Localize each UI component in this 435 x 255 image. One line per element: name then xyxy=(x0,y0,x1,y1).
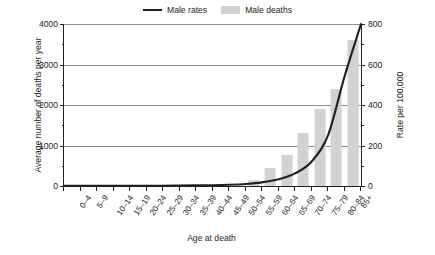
x-axis-labels: 0–45–910–1415–1920–2425–2930–3435–3940–4… xyxy=(63,186,360,234)
x-axis-tick-label: 5–9 xyxy=(96,194,111,210)
bar xyxy=(347,40,358,186)
bar-slot xyxy=(163,24,180,186)
bar xyxy=(298,133,309,186)
y-axis-left-minor-tick xyxy=(62,166,65,167)
y-axis-left-minor-tick xyxy=(62,125,65,126)
legend-item-male-rates: Male rates xyxy=(143,6,207,15)
legend-label-male-deaths: Male deaths xyxy=(245,6,292,15)
y-axis-right-tick xyxy=(361,105,365,106)
bar xyxy=(281,155,292,186)
x-axis-tick-label: 0–4 xyxy=(79,194,94,210)
y-axis-right-tick-label: 800 xyxy=(368,20,382,29)
bar-slot xyxy=(97,24,114,186)
bar-slot xyxy=(147,24,164,186)
bar xyxy=(265,168,276,186)
y-axis-right-tick-label: 200 xyxy=(368,141,382,150)
y-axis-right-tick-label: 0 xyxy=(368,182,373,191)
y-axis-left-tick xyxy=(60,65,64,66)
bar-slot xyxy=(262,24,279,186)
bar xyxy=(331,89,342,186)
y-axis-left-minor-tick xyxy=(62,44,65,45)
y-axis-right-minor-tick xyxy=(361,85,364,86)
legend-label-male-rates: Male rates xyxy=(167,6,207,15)
bar-slot xyxy=(229,24,246,186)
y-axis-right-minor-tick xyxy=(361,44,364,45)
chart-figure: Male rates Male deaths 01000200030004000… xyxy=(0,0,435,255)
bar-slot xyxy=(196,24,213,186)
bar-slot xyxy=(114,24,131,186)
bar-slot xyxy=(279,24,296,186)
y-axis-right-tick xyxy=(361,24,365,25)
y-axis-right-minor-tick xyxy=(361,166,364,167)
y-axis-right-minor-tick xyxy=(361,125,364,126)
y-axis-right-tick xyxy=(361,65,365,66)
bar-slot xyxy=(130,24,147,186)
y-axis-left-tick-label: 0 xyxy=(53,182,58,191)
bar-series-male-deaths xyxy=(64,24,361,186)
bar-slot xyxy=(81,24,98,186)
bar xyxy=(314,109,325,186)
bar-slot xyxy=(328,24,345,186)
y-axis-right-tick xyxy=(361,146,365,147)
bar-slot xyxy=(295,24,312,186)
y-axis-left-tick-label: 4000 xyxy=(39,20,58,29)
y-axis-left-tick xyxy=(60,146,64,147)
y-axis-left-tick xyxy=(60,24,64,25)
y-axis-right-tick-label: 600 xyxy=(368,60,382,69)
bar-slot xyxy=(213,24,230,186)
bar-slot xyxy=(180,24,197,186)
plot-area: 01000200030004000 0200400600800 Average … xyxy=(63,24,362,186)
y-axis-right-tick-label: 400 xyxy=(368,101,382,110)
bar-slot xyxy=(345,24,362,186)
bar-slot xyxy=(64,24,81,186)
x-axis-tick-label: 10–14 xyxy=(116,194,136,217)
legend-swatch-icon xyxy=(221,6,240,14)
y-axis-right-title: Rate per 100,000 xyxy=(395,72,405,138)
bar-slot xyxy=(246,24,263,186)
y-axis-left-minor-tick xyxy=(62,85,65,86)
legend-item-male-deaths: Male deaths xyxy=(221,6,292,15)
bar-slot xyxy=(312,24,329,186)
chart-legend: Male rates Male deaths xyxy=(0,2,435,18)
y-axis-left-tick xyxy=(60,105,64,106)
x-axis-title: Age at death xyxy=(63,233,360,243)
x-axis-tick xyxy=(360,186,361,191)
y-axis-left-title: Average number of deaths per year xyxy=(33,37,43,172)
legend-line-icon xyxy=(143,9,162,11)
